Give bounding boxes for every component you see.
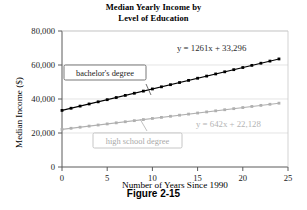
data-point bbox=[133, 92, 136, 95]
data-point bbox=[259, 62, 262, 65]
callout-bachelors-label: bachelor's degree bbox=[76, 69, 134, 78]
data-point bbox=[160, 85, 163, 88]
data-point bbox=[88, 103, 91, 106]
data-point bbox=[250, 64, 253, 67]
y-tick-label: 0 bbox=[51, 162, 55, 172]
data-point bbox=[205, 111, 208, 114]
data-point bbox=[178, 114, 181, 117]
data-point bbox=[106, 123, 109, 126]
data-point bbox=[169, 83, 172, 86]
data-point bbox=[115, 121, 118, 124]
data-point bbox=[79, 105, 82, 108]
y-axis-title: Median Income ($) bbox=[14, 77, 24, 148]
data-point bbox=[196, 112, 199, 115]
data-point bbox=[142, 118, 145, 121]
data-point bbox=[250, 105, 253, 108]
x-tick-label: 25 bbox=[284, 173, 293, 183]
callout-bachelors-degree: bachelor's degree bbox=[64, 65, 146, 80]
data-point bbox=[196, 77, 199, 80]
figure-container: Median Yearly Income by Level of Educati… bbox=[0, 0, 307, 210]
equation-bachelors-degree: y = 1261x + 33,296 bbox=[177, 43, 247, 53]
data-point bbox=[142, 90, 145, 93]
data-point bbox=[61, 128, 64, 131]
data-point bbox=[223, 70, 226, 73]
data-point bbox=[214, 109, 217, 112]
callout-high-school-label: high school degree bbox=[106, 137, 170, 146]
data-point bbox=[259, 104, 262, 107]
figure-caption: Figure 2-15 bbox=[0, 188, 307, 199]
data-point bbox=[269, 103, 272, 106]
data-point bbox=[151, 117, 154, 120]
chart-plot: Median Income ($) 020,00040,00060,00080,… bbox=[0, 0, 307, 210]
data-point bbox=[124, 94, 127, 97]
x-tick-label: 20 bbox=[239, 173, 248, 183]
y-tick-label: 40,000 bbox=[31, 94, 55, 104]
x-tick-label: 5 bbox=[105, 173, 109, 183]
data-point bbox=[187, 79, 190, 82]
y-tick-label: 80,000 bbox=[31, 26, 55, 36]
y-axis-ticks: 020,00040,00060,00080,000 bbox=[31, 26, 62, 172]
data-point bbox=[278, 102, 281, 105]
data-point bbox=[61, 109, 64, 112]
data-point bbox=[160, 116, 163, 119]
y-tick-label: 20,000 bbox=[31, 128, 55, 138]
data-point bbox=[106, 98, 109, 101]
data-point bbox=[151, 88, 154, 91]
y-tick-label: 60,000 bbox=[31, 60, 55, 70]
data-point bbox=[205, 75, 208, 78]
grid-lines bbox=[62, 31, 288, 133]
data-point bbox=[70, 107, 73, 110]
data-point bbox=[97, 124, 100, 127]
data-point bbox=[70, 127, 73, 130]
x-tick-label: 0 bbox=[60, 173, 64, 183]
data-point bbox=[269, 60, 272, 63]
data-point bbox=[88, 125, 91, 128]
data-point bbox=[169, 115, 172, 118]
data-point bbox=[178, 81, 181, 84]
data-point bbox=[79, 126, 82, 129]
data-point bbox=[232, 107, 235, 110]
data-point bbox=[124, 120, 127, 123]
data-point bbox=[241, 66, 244, 69]
data-point bbox=[214, 73, 217, 76]
data-point bbox=[187, 113, 190, 116]
data-point bbox=[97, 100, 100, 103]
data-point bbox=[278, 58, 281, 61]
data-point bbox=[133, 119, 136, 122]
equation-high-school-degree: y = 642x + 22,128 bbox=[196, 119, 262, 129]
data-point bbox=[223, 108, 226, 111]
data-point bbox=[232, 68, 235, 71]
data-point bbox=[115, 96, 118, 99]
data-point bbox=[241, 106, 244, 109]
callout-high-school-degree: high school degree bbox=[93, 133, 182, 148]
